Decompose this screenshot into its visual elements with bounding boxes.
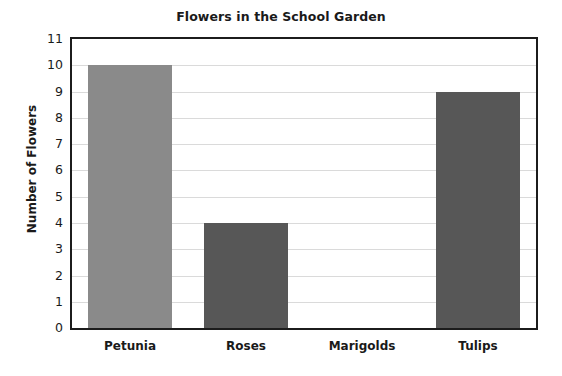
bar-petunia xyxy=(88,65,172,328)
y-axis-tick-label: 7 xyxy=(33,138,63,150)
bar-chart: Flowers in the School Garden Number of F… xyxy=(0,0,562,376)
y-axis-tick-label: 6 xyxy=(33,164,63,176)
y-axis-tick-label: 8 xyxy=(33,112,63,124)
x-axis-tick-label: Petunia xyxy=(70,339,190,353)
y-axis-tick-label: 11 xyxy=(33,33,63,45)
y-axis-tick-label: 2 xyxy=(33,270,63,282)
x-axis-tick-label: Marigolds xyxy=(302,339,422,353)
bar-roses xyxy=(204,223,288,328)
y-axis-tick-label: 10 xyxy=(33,59,63,71)
y-axis-tick-label: 3 xyxy=(33,243,63,255)
bar-tulips xyxy=(436,92,520,329)
y-axis-tick-label: 4 xyxy=(33,217,63,229)
y-axis-tick-label: 5 xyxy=(33,191,63,203)
y-axis-tick-label: 1 xyxy=(33,296,63,308)
y-axis-tick-label: 9 xyxy=(33,86,63,98)
y-axis-tick-label: 0 xyxy=(33,322,63,334)
plot-area xyxy=(70,37,538,330)
x-axis-tick-label: Tulips xyxy=(418,339,538,353)
bars-group xyxy=(72,39,536,328)
x-axis-tick-label: Roses xyxy=(186,339,306,353)
chart-title: Flowers in the School Garden xyxy=(0,9,562,24)
